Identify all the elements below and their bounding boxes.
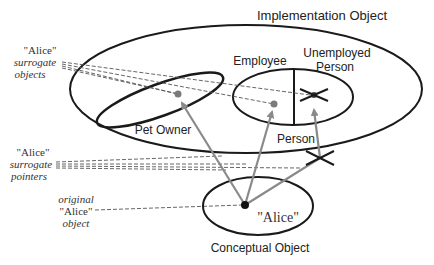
pet-owner-surrogate-dot	[175, 91, 182, 98]
employee-surrogate-dot	[271, 101, 278, 108]
original-object-dashed-line	[95, 205, 243, 210]
surrogate-pointer-arrows	[182, 103, 320, 205]
diagram-canvas: Implementation Object Pet Owner Employee…	[0, 0, 434, 265]
svg-text:surrogate: surrogate	[14, 56, 56, 68]
alice-original-dot	[241, 201, 249, 209]
svg-text:objects: objects	[14, 68, 45, 80]
conceptual-object-ellipse	[203, 177, 313, 235]
pet-owner-label: Pet Owner	[135, 123, 192, 137]
unemployed-person-label-line1: Unemployed	[303, 46, 370, 60]
svg-text:"Alice": "Alice"	[17, 146, 50, 158]
unemployed-person-label-line2: Person	[316, 60, 354, 74]
person-label: Person	[277, 132, 315, 146]
original-object-annotation: original "Alice" object	[58, 193, 93, 229]
svg-text:surrogate: surrogate	[10, 158, 52, 170]
employee-label: Employee	[233, 54, 287, 68]
alice-label: "Alice"	[257, 210, 299, 225]
surrogate-objects-annotation: "Alice" surrogate objects	[14, 44, 57, 80]
implementation-object-label: Implementation Object	[257, 8, 387, 23]
svg-text:pointers: pointers	[10, 170, 47, 182]
svg-text:"Alice": "Alice"	[24, 44, 57, 56]
conceptual-object-label: Conceptual Object	[211, 241, 310, 255]
svg-text:object: object	[63, 217, 91, 229]
surrogate-objects-dashed-lines	[62, 62, 310, 104]
surrogate-pointers-annotation: "Alice" surrogate pointers	[10, 146, 52, 182]
svg-text:"Alice": "Alice"	[60, 205, 93, 217]
svg-text:original: original	[58, 193, 93, 205]
unemployed-x-cross-icon	[300, 89, 328, 101]
surrogate-pointers-dashed-lines	[56, 156, 300, 170]
implementation-object-ellipse	[70, 25, 422, 153]
